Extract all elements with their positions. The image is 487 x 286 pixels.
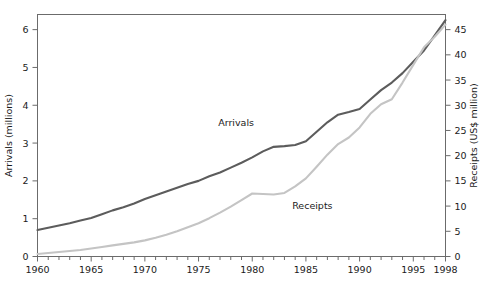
left-axis-tick-label: 0 [22,251,28,262]
right-axis-tick-label: 5 [455,226,461,237]
left-axis-tick-label: 2 [22,175,28,186]
x-axis-tick-label: 1975 [186,264,210,275]
x-axis-tick-label: 1998 [433,264,457,275]
x-axis-tick-label: 1990 [348,264,372,275]
right-axis-tick-label: 20 [455,150,467,161]
x-axis-tick-label: 1965 [79,264,103,275]
x-axis-tick-label: 1960 [25,264,49,275]
right-axis-title: Receipts (US$ million) [468,83,479,188]
right-axis-tick-label: 25 [455,125,467,136]
x-axis-tick-label: 1995 [401,264,425,275]
series-annotation-receipts: Receipts [292,200,332,211]
left-axis-tick-label: 3 [22,138,28,149]
series-annotation-arrivals: Arrivals [218,117,254,128]
right-axis-tick-label: 10 [455,201,467,212]
left-axis-tick-label: 1 [22,213,28,224]
right-axis-tick-label: 30 [455,100,467,111]
right-axis-tick-label: 0 [455,251,461,262]
x-axis-tick-label: 1970 [133,264,157,275]
left-axis-tick-label: 4 [22,100,28,111]
plot-frame [38,15,446,257]
chart-canvas: 1960196519701975198019851990199519980123… [0,0,487,286]
right-axis-tick-label: 15 [455,175,467,186]
tourism-chart: 1960196519701975198019851990199519980123… [0,0,487,286]
left-axis-tick-label: 5 [22,62,28,73]
series-line-receipts [38,25,446,254]
right-axis-tick-label: 35 [455,75,467,86]
right-axis-tick-label: 40 [455,49,467,60]
x-axis-tick-label: 1985 [294,264,318,275]
x-axis-tick-label: 1980 [240,264,264,275]
left-axis-title: Arrivals (millions) [3,94,14,177]
left-axis-tick-label: 6 [22,24,28,35]
right-axis-tick-label: 45 [455,24,467,35]
